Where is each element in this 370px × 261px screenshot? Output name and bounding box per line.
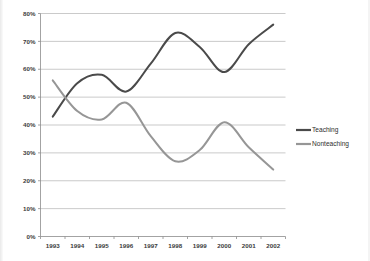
series-line-teaching <box>53 25 274 117</box>
y-axis-tick-label: 40% <box>23 121 36 128</box>
y-axis-tick-label: 30% <box>23 149 36 156</box>
y-axis-tick-label: 60% <box>23 65 36 72</box>
x-axis-tick-label: 1999 <box>193 242 207 249</box>
y-axis-tick-label: 10% <box>23 205 36 212</box>
x-axis-tick-label: 1998 <box>168 242 182 249</box>
chart-legend: TeachingNonteaching <box>296 126 349 148</box>
x-axis-tick-label: 1996 <box>119 242 133 249</box>
x-axis-tick-label: 1995 <box>95 242 109 249</box>
x-axis-tick-label: 1994 <box>70 242 84 249</box>
legend-label: Nonteaching <box>312 140 349 148</box>
x-axis-tick-label: 2000 <box>217 242 231 249</box>
chart-svg: 0%10%20%30%40%50%60%70%80% 1993199419951… <box>0 0 370 261</box>
y-axis-tick-label: 50% <box>23 93 36 100</box>
y-axis-tick-label: 80% <box>23 10 36 17</box>
legend-label: Teaching <box>312 126 339 134</box>
y-axis-tick-label: 20% <box>23 177 36 184</box>
x-axis-tick-label: 2002 <box>266 242 280 249</box>
chart-container: 0%10%20%30%40%50%60%70%80% 1993199419951… <box>0 0 370 261</box>
x-axis-tick-label: 1993 <box>46 242 60 249</box>
y-axis-tick-label: 70% <box>23 38 36 45</box>
y-axis-tick-labels: 0%10%20%30%40%50%60%70%80% <box>23 10 36 240</box>
x-axis-tick-label: 2001 <box>242 242 256 249</box>
x-axis-tick-labels: 1993199419951996199719981999200020012002 <box>46 242 281 249</box>
x-axis-tick-label: 1997 <box>144 242 158 249</box>
y-axis-tick-label: 0% <box>27 233 36 240</box>
line-chart: 0%10%20%30%40%50%60%70%80% 1993199419951… <box>0 0 370 261</box>
